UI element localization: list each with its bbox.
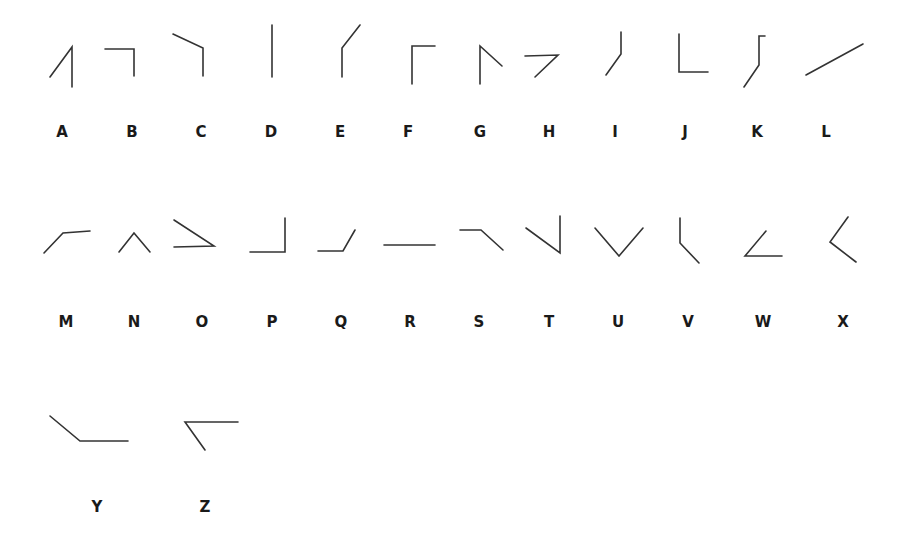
angle-symbol-icon (318, 230, 355, 251)
glyph-label: J (681, 123, 688, 141)
glyph-n: N (119, 233, 150, 331)
angle-symbol-icon (50, 416, 128, 441)
glyph-j: J (679, 34, 708, 141)
glyph-u: U (595, 228, 643, 331)
angle-symbol-icon (342, 25, 360, 77)
glyph-r: R (384, 245, 435, 331)
glyph-i: I (606, 32, 621, 141)
angle-symbol-icon (679, 34, 708, 72)
angle-symbol-icon (119, 233, 150, 252)
glyph-p: P (250, 218, 285, 331)
glyph-label: N (128, 313, 141, 331)
glyph-label: K (751, 123, 764, 141)
angle-symbol-icon (680, 218, 699, 263)
glyph-w: W (745, 231, 782, 331)
glyph-t: T (526, 216, 560, 331)
glyph-x: X (830, 217, 856, 331)
glyph-m: M (44, 231, 90, 331)
angle-symbol-icon (745, 231, 782, 256)
angle-symbol-icon (595, 228, 643, 256)
glyph-label: F (403, 123, 413, 141)
glyph-label: Q (335, 313, 348, 331)
glyph-s: S (460, 230, 503, 331)
angle-symbol-icon (250, 218, 285, 252)
angle-symbol-icon (480, 46, 502, 84)
glyph-k: K (744, 36, 765, 141)
glyph-label: S (474, 313, 485, 331)
glyph-label: I (612, 123, 618, 141)
angle-symbol-icon (185, 422, 238, 450)
glyph-label: Z (200, 498, 211, 516)
glyph-label: V (682, 313, 694, 331)
glyph-label: W (755, 313, 772, 331)
angle-symbol-icon (173, 34, 203, 76)
angle-symbol-icon (806, 44, 863, 75)
angle-symbol-icon (50, 47, 72, 87)
glyph-label: H (543, 123, 556, 141)
angle-symbol-icon (174, 220, 214, 247)
angle-symbol-icon (525, 55, 558, 77)
glyph-label: L (821, 123, 831, 141)
glyph-label: X (837, 313, 849, 331)
glyph-layer: ABCDEFGHIJKLMNOPQRSTUVWXYZ (44, 25, 863, 516)
angle-symbol-icon (830, 217, 856, 262)
glyph-h: H (525, 55, 558, 141)
glyph-label: C (195, 123, 206, 141)
glyph-f: F (403, 46, 435, 141)
glyph-label: D (265, 123, 277, 141)
glyph-e: E (335, 25, 360, 141)
glyph-label: R (404, 313, 416, 331)
glyph-label: E (335, 123, 345, 141)
glyph-a: A (50, 47, 72, 141)
glyph-label: A (56, 123, 68, 141)
glyph-q: Q (318, 230, 355, 331)
angle-symbol-icon (606, 32, 621, 75)
glyph-label: G (474, 123, 486, 141)
glyph-d: D (265, 25, 277, 141)
glyph-b: B (105, 49, 138, 141)
glyph-c: C (173, 34, 207, 141)
glyph-l: L (806, 44, 863, 141)
glyph-v: V (680, 218, 699, 331)
angle-symbol-icon (412, 46, 435, 84)
glyph-z: Z (185, 422, 238, 516)
angle-symbol-icon (105, 49, 134, 76)
glyph-label: T (544, 313, 555, 331)
glyph-o: O (174, 220, 214, 331)
cipher-alphabet-diagram: ABCDEFGHIJKLMNOPQRSTUVWXYZ (0, 0, 900, 535)
glyph-label: U (612, 313, 624, 331)
angle-symbol-icon (44, 231, 90, 253)
angle-symbol-icon (460, 230, 503, 250)
glyph-y: Y (50, 416, 128, 516)
glyph-label: O (196, 313, 209, 331)
glyph-label: M (59, 313, 74, 331)
glyph-label: P (267, 313, 278, 331)
glyph-label: Y (91, 498, 104, 516)
angle-symbol-icon (526, 216, 560, 253)
glyph-g: G (474, 46, 502, 141)
angle-symbol-icon (744, 36, 765, 87)
glyph-label: B (126, 123, 137, 141)
